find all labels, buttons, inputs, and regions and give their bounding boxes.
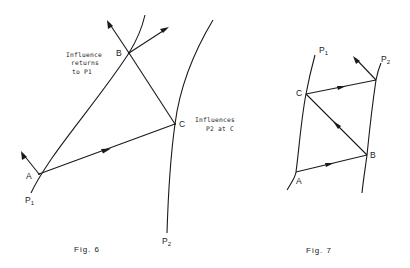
annotation-returns-line-1: Influence <box>66 51 102 58</box>
annotation-returns-line-3: to P1 <box>72 68 92 75</box>
figure-6: A B C P1 P2 Influence returns to P1 Infl… <box>21 15 235 254</box>
annotation-influences-line-1: Influences <box>195 116 235 123</box>
curve-label-p2: P2 <box>162 236 172 247</box>
worldline-p1 <box>31 15 145 193</box>
figure-caption-7: Fig. 7 <box>306 246 332 255</box>
worldline-p1 <box>287 55 315 190</box>
curve-label-p1: P1 <box>319 45 329 56</box>
event-point-b <box>128 52 130 54</box>
point-label-c: C <box>296 88 302 98</box>
arrowhead-a-to-c <box>101 149 111 154</box>
signal-c-to-b <box>129 53 175 124</box>
curve-label-p1: P1 <box>25 195 35 206</box>
event-point-c <box>174 123 176 125</box>
ray-p2-up-left <box>356 59 376 80</box>
curve-label-p2: P2 <box>381 54 391 65</box>
point-label-a: A <box>296 176 302 186</box>
figure-7: A B C P1 P2 Fig. 7 <box>287 45 391 255</box>
annotation-influences-line-2: P2 at C <box>206 125 234 132</box>
point-label-b: B <box>116 48 122 58</box>
arrowhead-a-to-b <box>325 163 334 167</box>
arrowhead-c-to-p2 <box>337 86 346 90</box>
figure-caption-6: Fig. 6 <box>74 245 100 254</box>
ray-b-up-right <box>129 29 166 53</box>
annotation-returns-line-2: returns <box>71 59 99 66</box>
event-point-a <box>38 173 40 175</box>
point-label-b: B <box>370 150 376 160</box>
point-label-c: C <box>179 119 185 129</box>
point-label-a: A <box>26 171 32 181</box>
diagram-canvas: A B C P1 P2 Influence returns to P1 Infl… <box>0 0 410 268</box>
